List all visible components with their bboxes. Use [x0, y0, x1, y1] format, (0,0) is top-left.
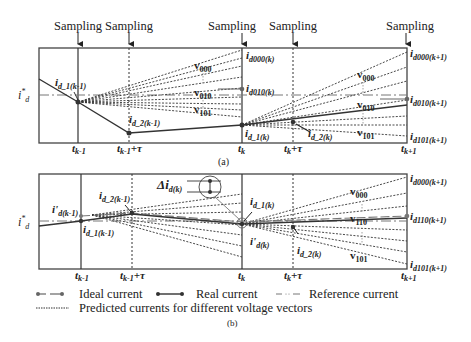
panel-a: Sampling Sampling Sampling Sampling Samp… [18, 19, 447, 168]
tick-t-k-tau-b: tk+τ [284, 269, 303, 283]
panel-b: i*d [18, 172, 447, 283]
sampling-arrows [78, 33, 406, 44]
reference-label-b: i*d [18, 214, 30, 231]
legend-reference-swatch [276, 293, 300, 294]
label-id110-kp1-b: id110(k+1) [410, 210, 447, 225]
delta-label: Δid(k) [156, 177, 182, 194]
label-id1-k: id_1(k) [245, 127, 270, 142]
predicted-fan-km1 [78, 50, 242, 117]
tick-t-km1: tk-1 [72, 142, 86, 156]
label-id000-kp1: id000(k+1) [410, 47, 447, 62]
tick-t-km1-b: tk-1 [75, 269, 89, 283]
vector-label-v101-right: v101 [357, 126, 375, 141]
sampling-label: Sampling [208, 19, 257, 33]
legend-ideal-swatch [36, 292, 64, 296]
sampling-label: Sampling [386, 19, 435, 33]
tick-t-k: tk [238, 142, 245, 156]
sampling-label: Sampling [105, 19, 154, 33]
reference-label: i*d [18, 87, 30, 104]
label-id000-k: id000(k) [246, 49, 275, 64]
label-id2-km1: id_2(k-1) [129, 113, 160, 128]
vector-label-v010: v010 [194, 86, 212, 101]
caption-b: (b) [227, 318, 238, 328]
label-id010-kp1: id010(k+1) [410, 93, 447, 108]
label-ip-km1: i'd(k-1) [52, 203, 78, 218]
caption-a: (a) [218, 156, 229, 168]
tick-t-km1-tau-b: tk-1+τ [120, 269, 146, 283]
sampling-label: Sampling [54, 19, 103, 33]
label-id2-km1-b: id_2(k-1) [99, 189, 130, 204]
tick-t-km1-tau: tk-1+τ [117, 142, 143, 156]
legend-ideal-label: Ideal current [79, 287, 143, 301]
vector-label-v101-b: v101 [350, 249, 368, 264]
sampling-label: Sampling [269, 19, 318, 33]
vector-label-v101: v101 [194, 103, 212, 118]
vector-label-v000: v000 [194, 59, 212, 74]
label-ip-k: i'd(k) [250, 235, 270, 250]
diagram-canvas: Sampling Sampling Sampling Sampling Samp… [0, 0, 471, 342]
label-id2-k: id_2(k) [308, 127, 333, 142]
label-id1-k-b: id_1(k) [250, 195, 275, 210]
label-id1-km1-b: id_1(k-1) [83, 223, 114, 238]
label-id101-kp1: id101(k+1) [410, 130, 447, 145]
vector-label-v110-b: v110 [350, 212, 367, 227]
arrow-id1k-b [244, 212, 252, 221]
label-id2-k-b: id_2(k) [297, 244, 322, 259]
vector-brackets-a [203, 70, 363, 125]
label-id010-k: id010(k) [246, 82, 275, 97]
label-id101-kp1-b: id101(k+1) [410, 258, 447, 273]
tick-t-k-b: tk [238, 269, 245, 283]
arrow-id2km1-b [125, 205, 131, 212]
legend-predicted-label: Predicted currents for different voltage… [79, 301, 312, 315]
legend-reference-label: Reference current [309, 287, 399, 301]
legend-real-swatch [156, 292, 184, 296]
label-id000-kp1-b: id000(k+1) [410, 172, 447, 187]
label-id1-km1: id_1(k-1) [55, 76, 86, 91]
vector-label-v000-b: v000 [350, 185, 368, 200]
legend-real-label: Real current [196, 287, 258, 301]
vector-label-v000-right: v000 [357, 68, 375, 83]
tick-t-k-tau: tk+τ [284, 142, 303, 156]
